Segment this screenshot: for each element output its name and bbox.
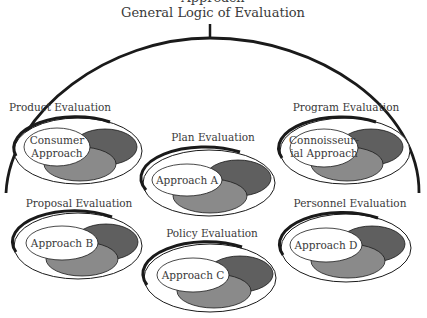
approach-label: Approach D [293, 239, 357, 251]
group-label: Program Evaluation [293, 101, 400, 113]
diagram-title: General Logic of Evaluation [121, 5, 306, 20]
group-label: Product Evaluation [9, 101, 111, 113]
approach-label-2: ial Approach [290, 147, 358, 159]
approach-label: Approach A [155, 174, 219, 186]
group-label: Proposal Evaluation [26, 197, 133, 209]
approach-label: Connoisseur- [289, 134, 359, 146]
evaluation-diagram: Approach General Logic of Evaluation Pro… [0, 0, 427, 318]
group-plan: Plan Evaluation Approach A [141, 131, 275, 216]
group-program: Program Evaluation Connoisseur- ial Appr… [279, 101, 410, 184]
group-policy: Policy Evaluation Approach C [143, 227, 276, 312]
group-proposal: Proposal Evaluation Approach B [12, 197, 142, 279]
approach-label-2: Approach [30, 147, 83, 159]
approach-label: Approach B [30, 237, 94, 249]
group-personnel: Personnel Evaluation Approach D [279, 197, 411, 282]
group-product: Product Evaluation Consumer Approach [9, 101, 142, 184]
approach-label: Approach C [161, 269, 225, 281]
approach-label: Consumer [30, 134, 85, 146]
group-label: Policy Evaluation [166, 227, 258, 239]
group-label: Personnel Evaluation [294, 197, 407, 209]
group-label: Plan Evaluation [171, 131, 255, 143]
